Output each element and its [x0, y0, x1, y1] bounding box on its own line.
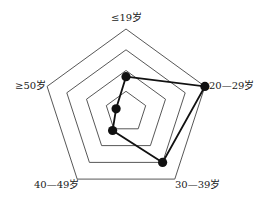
axis-label-30-39: 30—39岁 [175, 179, 220, 191]
axis-label-20-29: 20—29岁 [209, 80, 254, 92]
grid-ring [87, 71, 166, 146]
radar-chart [0, 0, 267, 200]
axis-label-40-49: 40—49岁 [34, 179, 79, 191]
data-point-marker [112, 104, 121, 113]
axis-label-over-50: ≥50岁 [15, 80, 46, 92]
data-point-marker [121, 72, 130, 81]
data-point-marker [158, 158, 167, 167]
radar-grid [47, 29, 205, 179]
axis-label-under-19: ≤19岁 [111, 12, 142, 24]
data-point-marker [108, 126, 117, 135]
